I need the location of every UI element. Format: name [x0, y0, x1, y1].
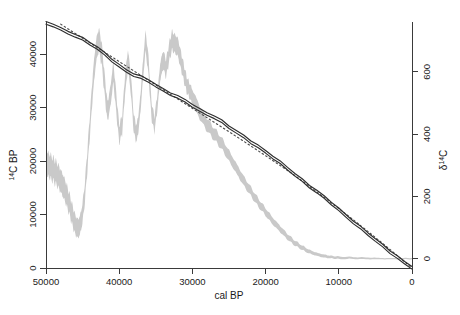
x-axis-tick-label: 10000 [326, 276, 352, 287]
y-axis-left-tick-label: 30000 [27, 94, 38, 120]
y-axis-left-tick-label: 10000 [27, 201, 38, 227]
x-axis-ticks: 50000400003000020000100000 [33, 268, 415, 287]
x-axis-title: cal BP [215, 290, 244, 301]
y-axis-right-tick-label: 400 [421, 126, 432, 142]
y-axis-left-tick-label: 20000 [27, 148, 38, 174]
x-axis-tick-label: 50000 [33, 276, 59, 287]
chart-figure: 010000200003000040000 0200400600 5000040… [0, 0, 460, 315]
y-axis-right-tick-label: 600 [421, 64, 432, 80]
y-axis-left-tick-label: 0 [27, 265, 38, 270]
y-axis-right-title: δ14C [438, 150, 450, 170]
y-axis-right-tick-label: 200 [421, 188, 432, 204]
y-axis-left-title: 14C BP [8, 149, 20, 180]
x-axis-tick-label: 20000 [252, 276, 278, 287]
x-axis-tick-label: 40000 [106, 276, 132, 287]
x-axis-tick-label: 0 [409, 276, 414, 287]
y-axis-right-tick-label: 0 [421, 256, 432, 261]
x-axis-tick-label: 30000 [179, 276, 205, 287]
y-axis-left-ticks: 010000200003000040000 [27, 41, 46, 271]
y-axis-left-tick-label: 40000 [27, 41, 38, 67]
delta14c-grey-envelope [46, 28, 412, 260]
chart-plot-area: 010000200003000040000 0200400600 5000040… [0, 0, 460, 315]
y-axis-right-ticks: 0200400600 [412, 64, 432, 261]
